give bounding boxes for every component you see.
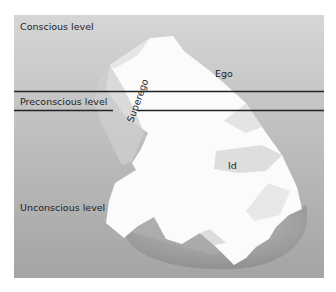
- label-ego: Ego: [215, 68, 233, 79]
- iceberg-diagram: Conscious level Preconscious level Uncon…: [14, 15, 324, 278]
- label-preconscious-level: Preconscious level: [20, 96, 107, 107]
- label-unconscious-level: Unconscious level: [20, 202, 105, 213]
- iceberg-canvas: Conscious level Preconscious level Uncon…: [14, 15, 324, 278]
- label-id: Id: [228, 160, 237, 171]
- label-conscious-level: Conscious level: [20, 21, 94, 32]
